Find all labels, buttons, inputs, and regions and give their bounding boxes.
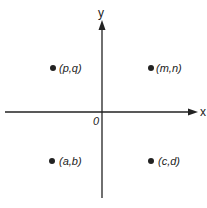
point-cd: (c,d) xyxy=(148,155,180,167)
x-axis-label: x xyxy=(200,105,206,119)
x-axis-arrow-icon xyxy=(188,109,198,116)
point-mn: (m,n) xyxy=(148,62,182,74)
point-label: (c,d) xyxy=(158,155,180,167)
y-axis-arrow-icon xyxy=(99,20,106,30)
point-label: (p,q) xyxy=(59,62,82,74)
point-marker-icon xyxy=(148,158,154,164)
point-marker-icon xyxy=(49,158,55,164)
origin-label: 0 xyxy=(93,115,100,127)
point-label: (m,n) xyxy=(156,62,182,74)
diagram-svg: x y 0 (p,q) (m,n) (a,b) (c,d) xyxy=(0,0,207,208)
coordinate-plane-diagram: x y 0 (p,q) (m,n) (a,b) (c,d) xyxy=(0,0,207,208)
point-pq: (p,q) xyxy=(50,62,82,74)
point-marker-icon xyxy=(148,65,154,71)
point-label: (a,b) xyxy=(59,155,82,167)
y-axis-label: y xyxy=(98,6,104,20)
point-marker-icon xyxy=(50,65,56,71)
point-ab: (a,b) xyxy=(49,155,82,167)
